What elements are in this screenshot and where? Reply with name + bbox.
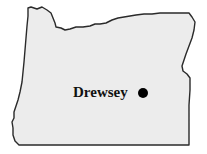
drewsey-location-marker <box>138 88 148 98</box>
oregon-state-outline <box>12 7 195 145</box>
drewsey-label: Drewsey <box>73 84 128 100</box>
map: Drewsey <box>0 0 207 154</box>
